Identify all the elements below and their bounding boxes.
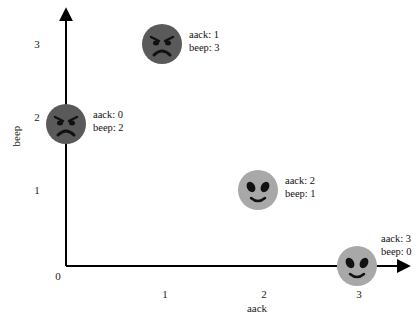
angry-face-icon bbox=[46, 104, 86, 144]
point-label: beep: 1 bbox=[285, 188, 316, 199]
eye-left bbox=[153, 41, 159, 46]
point-label: aack: 1 bbox=[189, 29, 219, 40]
point-label: beep: 0 bbox=[381, 246, 412, 257]
y-tick-label: 3 bbox=[34, 38, 40, 50]
eye-right bbox=[69, 121, 75, 126]
point-label: aack: 3 bbox=[381, 233, 411, 244]
point-label: aack: 0 bbox=[93, 109, 123, 120]
alien-face-icon bbox=[337, 246, 377, 286]
x-tick-label: 1 bbox=[162, 288, 168, 300]
data-point: aack: 1beep: 3 bbox=[142, 24, 220, 64]
x-tick-label: 3 bbox=[356, 288, 362, 300]
x-axis-label: aack bbox=[247, 302, 268, 314]
eye-left bbox=[57, 121, 63, 126]
point-label: aack: 2 bbox=[285, 175, 315, 186]
point-label: beep: 3 bbox=[189, 42, 220, 53]
angry-face-icon bbox=[142, 24, 182, 64]
scatter-chart: 0 123 123 aack beep aack: 0beep: 2aack: … bbox=[0, 0, 419, 320]
y-axis-label: beep bbox=[10, 125, 22, 146]
data-point: aack: 2beep: 1 bbox=[238, 170, 316, 210]
y-tick-label: 2 bbox=[34, 111, 40, 123]
y-tick-label: 1 bbox=[34, 184, 40, 196]
x-tick-label: 2 bbox=[261, 288, 267, 300]
eye-right bbox=[165, 41, 171, 46]
origin-label: 0 bbox=[55, 270, 61, 282]
data-point: aack: 3beep: 0 bbox=[337, 233, 412, 286]
point-label: beep: 2 bbox=[93, 122, 124, 133]
data-point: aack: 0beep: 2 bbox=[46, 104, 124, 144]
alien-face-icon bbox=[238, 170, 278, 210]
